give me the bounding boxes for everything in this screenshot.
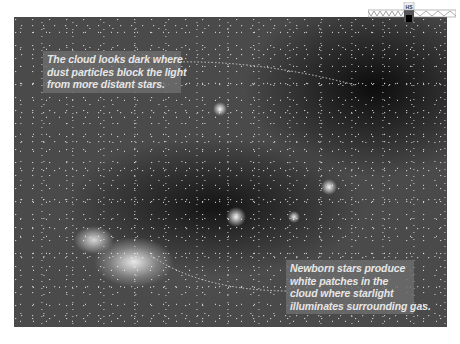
callout-text-line: cloud where starlight xyxy=(290,287,410,300)
callout-text-line: white patches in the xyxy=(290,275,410,288)
callout-text-line: dust particles block the light xyxy=(47,66,177,79)
callout-newborn-stars: Newborn stars produce white patches in t… xyxy=(286,260,414,314)
callout-text-line: Newborn stars produce xyxy=(290,262,410,275)
callout-text-line: from more distant stars. xyxy=(47,78,177,91)
truss-bridge-icon: HS xyxy=(368,2,456,22)
callout-text-line: The cloud looks dark where xyxy=(47,53,177,66)
callout-text-line: illuminates surrounding gas. xyxy=(290,300,410,313)
callout-dark-cloud: The cloud looks dark where dust particle… xyxy=(43,51,181,93)
icon-label: HS xyxy=(406,4,414,10)
